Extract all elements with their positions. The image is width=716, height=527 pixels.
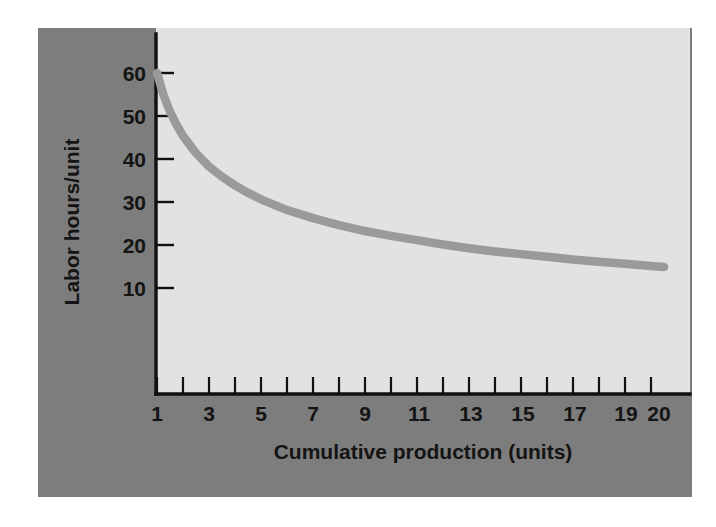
y-axis-title-text: Labor hours/unit: [60, 139, 83, 306]
x-tick-label-5: 5: [255, 402, 267, 425]
y-tick-label-10: 10: [123, 277, 146, 300]
y-tick-label-40: 40: [123, 148, 146, 171]
x-tick-label-15: 15: [511, 402, 535, 425]
y-axis-title: Labor hours/unit: [60, 72, 84, 372]
figure-root: 60 50 40 30 20 10: [0, 0, 716, 527]
x-tick-label-7: 7: [307, 402, 319, 425]
y-tick-label-50: 50: [123, 105, 146, 128]
x-axis-title: Cumulative production (units): [156, 440, 690, 464]
learning-curve-line: [157, 73, 664, 267]
x-axis-title-text: Cumulative production (units): [274, 440, 573, 463]
x-tick-label-9: 9: [359, 402, 371, 425]
x-tick-label-1: 1: [151, 402, 163, 425]
x-tick-label-20: 20: [647, 402, 670, 425]
x-tick-label-13: 13: [459, 402, 482, 425]
y-tick-label-60: 60: [123, 62, 146, 85]
x-axis-ticks: [157, 377, 651, 394]
y-tick-label-20: 20: [123, 234, 146, 257]
x-tick-label-17: 17: [563, 402, 586, 425]
x-tick-label-3: 3: [203, 402, 215, 425]
y-axis-tick-labels: 60 50 40 30 20 10: [123, 62, 146, 300]
x-tick-label-19: 19: [614, 402, 637, 425]
x-axis-tick-labels: 1 3 5 7 9 11 13 15 17 19 20: [151, 402, 671, 425]
y-tick-label-30: 30: [123, 191, 146, 214]
x-tick-label-11: 11: [408, 402, 431, 425]
